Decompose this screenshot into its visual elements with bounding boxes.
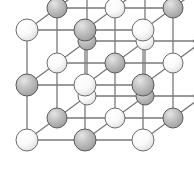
atom-sphere bbox=[47, 53, 67, 73]
lattice-atom-anion-light bbox=[105, 108, 125, 128]
lattice-atom-anion-light bbox=[74, 74, 96, 96]
lattice-atom-cation-dark bbox=[163, 108, 183, 128]
lattice-atom-cation-dark bbox=[74, 129, 96, 151]
atom-sphere bbox=[105, 108, 125, 128]
lattice-atom-cation-dark bbox=[163, 0, 183, 18]
lattice-atom-cation-dark bbox=[105, 53, 125, 73]
atom-sphere bbox=[163, 53, 183, 73]
lattice-atom-anion-light bbox=[163, 53, 183, 73]
lattice-atom-anion-light bbox=[105, 0, 125, 18]
atom-sphere bbox=[132, 129, 154, 151]
atom-sphere bbox=[132, 74, 154, 96]
atom-sphere bbox=[132, 19, 154, 41]
atom-sphere bbox=[74, 74, 96, 96]
lattice-atom-anion-light bbox=[47, 53, 67, 73]
atom-sphere bbox=[105, 53, 125, 73]
lattice-atom-anion-light bbox=[132, 129, 154, 151]
lattice-atom-cation-dark bbox=[74, 19, 96, 41]
atom-sphere bbox=[163, 0, 183, 18]
atom-sphere bbox=[74, 129, 96, 151]
atom-sphere bbox=[47, 108, 67, 128]
lattice-atom-anion-light bbox=[132, 19, 154, 41]
lattice-figure bbox=[0, 0, 194, 173]
lattice-atom-cation-dark bbox=[47, 0, 67, 18]
lattice-canvas bbox=[0, 0, 194, 173]
lattice-atom-anion-light bbox=[16, 129, 38, 151]
lattice-atom-cation-dark bbox=[47, 108, 67, 128]
lattice-atom-cation-dark bbox=[16, 74, 38, 96]
atom-sphere bbox=[163, 108, 183, 128]
atom-sphere bbox=[16, 74, 38, 96]
lattice-atom-anion-light bbox=[16, 19, 38, 41]
atom-sphere bbox=[47, 0, 67, 18]
lattice-atom-cation-dark bbox=[132, 74, 154, 96]
atom-sphere bbox=[16, 19, 38, 41]
atom-sphere bbox=[16, 129, 38, 151]
atom-sphere bbox=[74, 19, 96, 41]
atom-sphere bbox=[105, 0, 125, 18]
